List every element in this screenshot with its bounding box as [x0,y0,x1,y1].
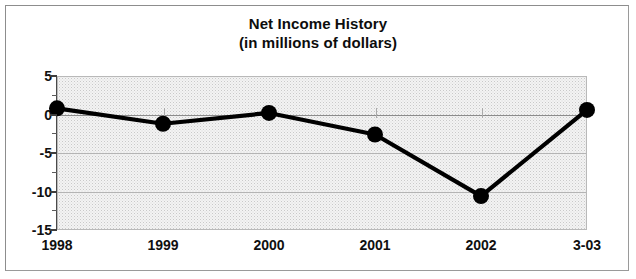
data-point-2001 [367,127,383,143]
y-tick--15 [50,229,57,231]
y-tick-minor [52,133,57,134]
y-tick--10 [50,191,57,193]
data-point-2002 [473,188,489,204]
y-tick--5 [50,152,57,154]
net-income-markers [49,100,595,204]
net-income-line [57,108,587,196]
data-series-layer [0,0,636,279]
data-point-1999 [155,116,171,132]
y-tick-minor [52,95,57,96]
y-tick-minor [52,172,57,173]
y-tick-minor [52,210,57,211]
y-tick-5 [50,75,57,77]
data-point-2000 [261,105,277,121]
data-point-3-03 [579,102,595,118]
chart-figure: Net Income History (in millions of dolla… [0,0,636,279]
y-tick-0 [50,114,57,116]
